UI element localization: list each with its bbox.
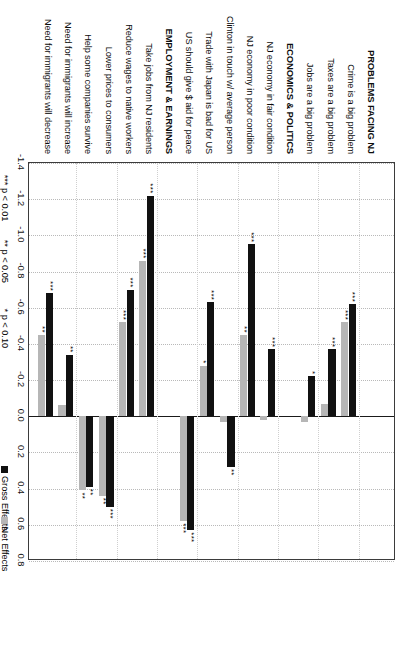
section-header-label: PROBLEMS FACING NJ [366,50,376,154]
significance-marker: *** [180,523,187,533]
bar-gross [308,376,315,416]
bar-net [58,405,65,416]
category-label: Take jobs from NJ residents [144,43,154,154]
category-label: US should give $ aid for peace [184,32,194,154]
bar-net [79,416,86,490]
bar-gross [86,416,93,487]
x-tick-label: 0.8 [16,554,26,567]
significance-marker: *** [120,310,127,320]
bar-gross [187,416,194,530]
bar-net [139,261,146,417]
figure-rotated-wrapper: PROBLEMS FACING NJCrime is a big problem… [0,0,405,672]
bar-net [180,416,187,521]
significance-marker: *** [47,281,54,291]
bar-gross [268,349,275,416]
category-label: Clinton in touch w/ average person [225,16,235,154]
bar-gross [228,416,235,467]
plot-area: ****************************************… [28,162,395,560]
category-label-column: PROBLEMS FACING NJCrime is a big problem… [0,0,405,160]
bar-gross [349,304,356,416]
legend-item: Net Effects [0,517,10,572]
significance-marker: ** [228,469,235,476]
bar-group: ****** [178,163,198,559]
bar-group: **** [199,163,219,559]
significance-marker: *** [248,232,255,242]
x-tick-label: -0.4 [16,335,26,351]
bar-net [119,322,126,416]
gridline-vertical [29,561,394,562]
bar-group: ***** [37,163,57,559]
bar-group: *** [259,163,279,559]
significance-marker: * [200,360,207,363]
bar-group: ***** [98,163,118,559]
bar-net [301,416,308,421]
bar-gross [66,355,73,417]
significance-marker: *** [329,337,336,347]
category-label: Taxes are a big problem [326,58,336,154]
legend-label: Net Effects [0,527,10,572]
figure-rotation-inner: PROBLEMS FACING NJCrime is a big problem… [0,0,405,672]
bar-net [341,322,348,416]
bar-gross [106,416,113,506]
significance-marker: ** [79,492,86,499]
bar-group: ** [219,163,239,559]
bar-group: ****** [138,163,158,559]
category-label: NJ economy in poor condition [245,36,255,154]
bar-group: ** [57,163,77,559]
bar-net [38,335,45,416]
significance-marker: ** [67,346,74,353]
significance-marker: *** [349,292,356,302]
significance-marker: ** [241,326,248,333]
x-tick-label: -1.0 [16,226,26,242]
bar-gross [147,196,154,417]
bar-gross [328,349,335,416]
bar-group: *** [320,163,340,559]
x-tick-label: -0.8 [16,263,26,279]
bar-net [99,416,106,496]
bar-net [220,416,227,421]
significance-marker: ** [39,326,46,333]
significance-marker: ** [87,489,94,496]
legend-swatch-icon [1,466,8,473]
category-label: NJ economy in fair condition [265,41,275,154]
significance-note: ** p < 0.05 [0,240,10,283]
x-tick-label: 0.6 [16,517,26,530]
category-label: Crime is a big problem [346,64,356,154]
legend-and-significance-notes: Gross EffectsNet Effects*** p < 0.01** p… [0,162,10,560]
significance-note: * p < 0.10 [0,309,10,349]
bar-net [260,416,267,420]
category-label: Reduce wages to native workers [124,24,134,154]
significance-marker: *** [208,290,215,300]
significance-marker: *** [140,248,147,258]
bar-net [200,366,207,417]
significance-note: *** p < 0.01 [0,175,10,222]
category-label: Need for immigrants will decrease [43,19,53,154]
x-tick-label: -0.6 [16,299,26,315]
category-label: Jobs are a big problem [305,63,315,154]
section-header-label: EMPLOYMENT & EARNINGS [164,28,174,154]
x-tick-label: 0.2 [16,445,26,458]
significance-marker: * [309,371,316,374]
category-label: Need for immigrants will increase [63,22,73,154]
x-tick-label: 0.0 [16,409,26,422]
x-tick-label: 0.4 [16,481,26,494]
x-tick-label: -1.2 [16,190,26,206]
legend-swatch-icon [1,517,8,524]
significance-marker: ** [100,498,107,505]
significance-marker: *** [269,337,276,347]
significance-marker: *** [342,310,349,320]
category-label: Trade with Japan is bad for US [205,31,215,154]
section-header-label: ECONOMICS & POLITICS [285,43,295,154]
x-tick-label: -0.2 [16,371,26,387]
category-label: Help some companies survive [83,34,93,154]
significance-marker: *** [107,509,114,519]
significance-marker: *** [127,277,134,287]
bar-group: **** [77,163,97,559]
bar-gross [127,290,134,417]
x-tick-label: -1.4 [16,154,26,170]
bar-group: ****** [340,163,360,559]
category-label: Lower prices to consumers [104,47,114,154]
significance-marker: *** [147,183,154,193]
bar-chart-figure: PROBLEMS FACING NJCrime is a big problem… [0,0,405,672]
bar-group: * [299,163,319,559]
